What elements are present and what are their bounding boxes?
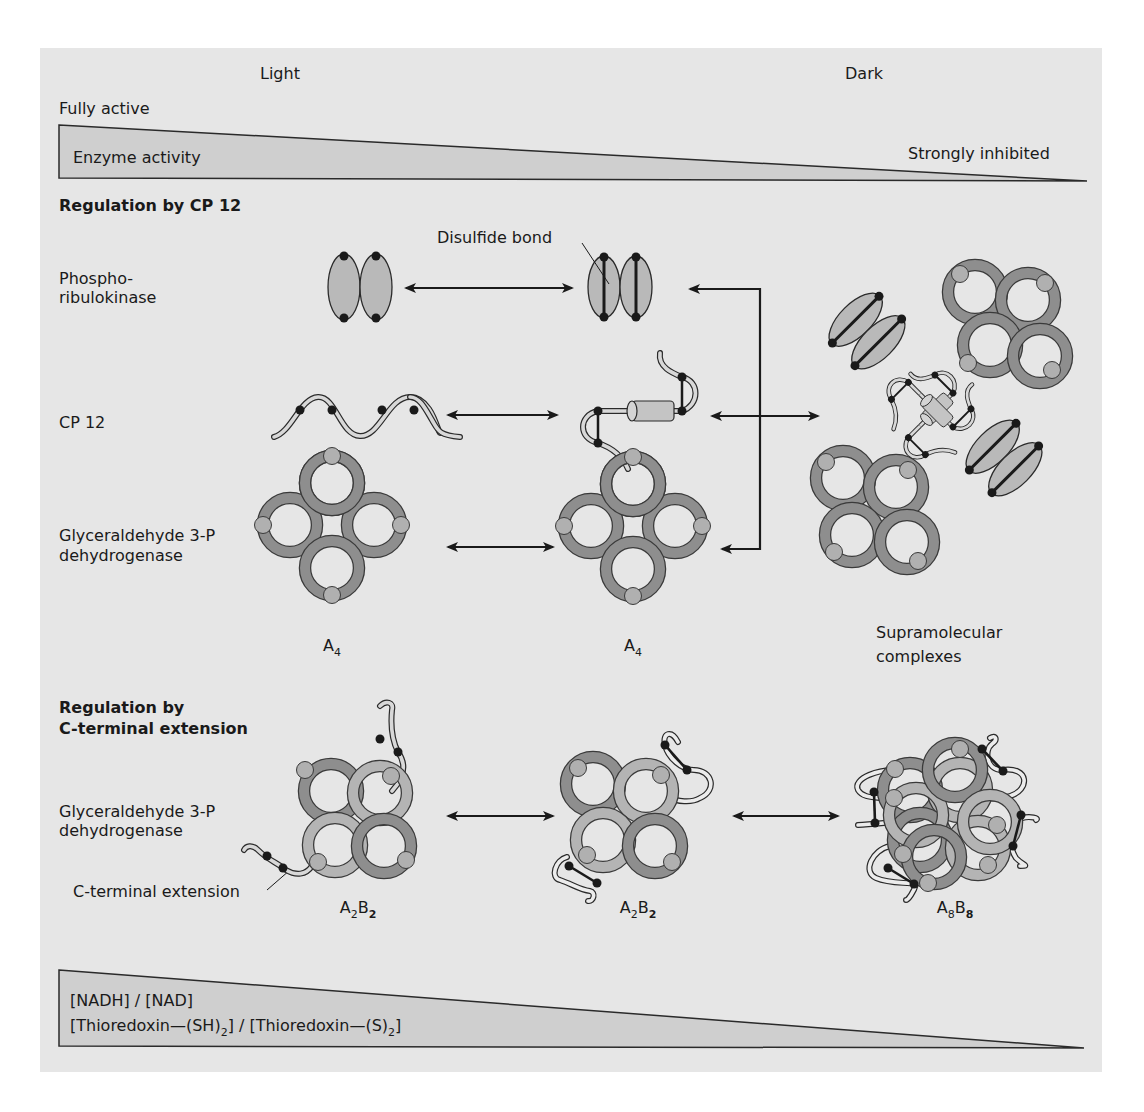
row-label-prk-2: ribulokinase — [59, 288, 156, 307]
row-label-gapdh-cterm-2: dehydrogenase — [59, 821, 183, 840]
nadh-nad-ratio-label: [NADH] / [NAD] — [70, 991, 193, 1010]
section-title-cterm-1: Regulation by — [59, 698, 185, 717]
dark-label: Dark — [845, 64, 884, 83]
c-terminal-extension-label: C-terminal extension — [73, 882, 240, 901]
row-label-prk-1: Phospho- — [59, 269, 133, 288]
row-label-cp12: CP 12 — [59, 413, 105, 432]
section-title-cp12: Regulation by CP 12 — [59, 196, 241, 215]
disulfide-bond-label: Disulfide bond — [437, 228, 552, 247]
light-label: Light — [260, 64, 300, 83]
enzyme-activity-label: Enzyme activity — [73, 148, 201, 167]
row-label-gapdh-1: Glyceraldehyde 3-P — [59, 526, 215, 545]
row-label-gapdh-2: dehydrogenase — [59, 546, 183, 565]
strongly-inhibited-label: Strongly inhibited — [908, 144, 1050, 163]
fully-active-label: Fully active — [59, 99, 150, 118]
row-label-gapdh-cterm-1: Glyceraldehyde 3-P — [59, 802, 215, 821]
section-title-cterm-2: C-terminal extension — [59, 719, 248, 738]
diagram-canvas: Light Dark Fully active Enzyme activity … — [0, 0, 1144, 1112]
complex-label-1: Supramolecular — [876, 623, 1003, 642]
complex-label-2: complexes — [876, 647, 962, 666]
